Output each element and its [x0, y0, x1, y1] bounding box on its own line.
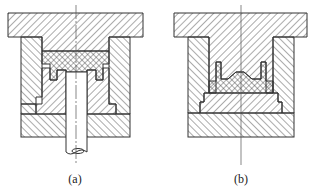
- mold-diagram: [0, 0, 314, 195]
- left-wall-a: [21, 37, 42, 104]
- right-wall-a: [109, 37, 130, 114]
- caption-b: (b): [234, 172, 248, 187]
- caption-a: (a): [68, 172, 81, 187]
- panel-a: [8, 5, 143, 165]
- panel-b: [174, 5, 307, 165]
- plunger-rod-a: [66, 72, 87, 154]
